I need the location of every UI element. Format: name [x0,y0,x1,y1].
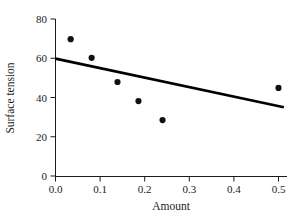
y-tick-label: 60 [36,52,48,64]
data-point [159,117,165,123]
x-tick-label: 0.1 [93,183,107,195]
x-axis-title: Amount [152,200,191,212]
x-tick-label: 0.2 [138,183,152,195]
x-tick-label: 0.3 [182,183,196,195]
chart-canvas: 80 60 40 20 0 0.0 0.1 0.2 0.3 0.4 0.5 [0,0,302,218]
y-tick-label: 20 [36,131,48,143]
y-tick-label: 0 [42,170,48,182]
data-point [68,36,74,42]
y-tick-label: 40 [36,92,48,104]
scatter-plot-figure: 80 60 40 20 0 0.0 0.1 0.2 0.3 0.4 0.5 [0,0,302,218]
x-tick-label: 0.0 [49,183,63,195]
data-point [89,55,95,61]
data-point [114,79,120,85]
data-point [275,85,281,91]
x-tick-label: 0.4 [227,183,241,195]
y-axis-title: Surface tension [4,62,16,133]
x-tick-label: 0.5 [272,183,286,195]
data-point [135,98,141,104]
y-tick-label: 80 [36,13,48,25]
